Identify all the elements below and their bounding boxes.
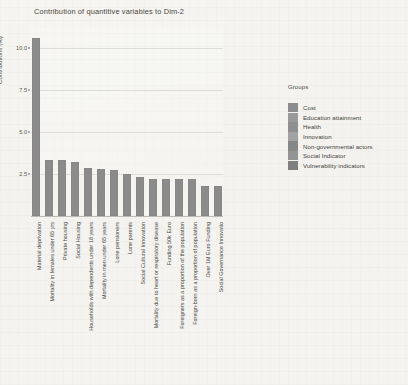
bar[interactable] — [123, 174, 131, 216]
bar-series — [31, 28, 223, 216]
x-tick-label: Private housing — [62, 222, 68, 260]
legend: Groups CostEducation attainmentHealthInn… — [288, 84, 406, 170]
x-tick-label: Social Governance Innovatio — [218, 222, 224, 292]
x-label-slot: Material deprivation — [32, 219, 40, 379]
legend-title: Groups — [288, 84, 406, 90]
legend-item-label: Innovation — [303, 133, 332, 140]
legend-item[interactable]: Education attainment — [288, 113, 406, 123]
x-label-slot: Foreigners as a proportion of the popula… — [175, 219, 183, 379]
legend-item[interactable]: Social Indicator — [288, 151, 406, 161]
x-label-slot: Mortality in females under 65 yrs — [45, 219, 53, 379]
bar[interactable] — [149, 179, 157, 216]
y-tick-label: 7.5 — [19, 87, 27, 93]
x-tick-label: Funding 50k Euro — [166, 222, 172, 265]
x-label-slot: Social Cultural Innovation — [136, 219, 144, 379]
bar[interactable] — [84, 168, 92, 216]
x-tick-label: Social Housing — [75, 222, 81, 259]
chart-title: Contribution of quantitive variables to … — [34, 7, 184, 16]
y-axis-ticks: 10.07.55.02.5 — [0, 28, 31, 216]
legend-color-swatch — [288, 161, 298, 170]
legend-item[interactable]: Non-governmental actors — [288, 141, 406, 151]
x-tick-label: Mortality due to heart or respiratory di… — [153, 222, 159, 328]
legend-item-label: Vulnerability indicators — [303, 162, 365, 169]
x-tick-label: Households with dependents under 18 year… — [88, 222, 94, 331]
x-label-slot: Social Governance Innovatio — [214, 219, 222, 379]
y-tick-mark — [28, 132, 30, 133]
legend-item-label: Education attainment — [303, 114, 361, 121]
legend-color-swatch — [288, 151, 298, 160]
x-tick-label: Mortality in females under 65 yrs — [49, 222, 55, 302]
bar[interactable] — [175, 179, 183, 216]
x-label-slot: Mortality in men under 65 years — [97, 219, 105, 379]
legend-item[interactable]: Innovation — [288, 132, 406, 142]
bar[interactable] — [58, 160, 66, 216]
legend-items: CostEducation attainmentHealthInnovation… — [288, 103, 406, 170]
legend-color-swatch — [288, 122, 298, 131]
legend-color-swatch — [288, 141, 298, 150]
x-label-slot: Social Housing — [71, 219, 79, 379]
x-axis-labels: Material deprivationMortality in females… — [31, 219, 223, 379]
x-tick-label: Over 1M Euro Funding — [205, 222, 211, 278]
x-tick-label: Lone pensioners — [114, 222, 120, 263]
chart-container: Contribution of quantitive variables to … — [0, 0, 408, 385]
legend-item-label: Social Indicator — [303, 152, 345, 159]
bar[interactable] — [136, 177, 144, 216]
legend-color-swatch — [288, 113, 298, 122]
x-label-slot: Lone parents — [123, 219, 131, 379]
y-tick-label: 2.5 — [19, 171, 27, 177]
legend-item-label: Cost — [303, 104, 316, 111]
legend-item[interactable]: Health — [288, 122, 406, 132]
x-tick-label: Foreign-born as a proportion of populati… — [192, 222, 198, 325]
x-label-slot: Foreign-born as a proportion of populati… — [188, 219, 196, 379]
legend-item-label: Non-governmental actors — [303, 143, 373, 150]
legend-item[interactable]: Vulnerability indicators — [288, 161, 406, 171]
bar[interactable] — [201, 186, 209, 216]
legend-color-swatch — [288, 132, 298, 141]
x-label-slot: Lone pensioners — [110, 219, 118, 379]
legend-item-label: Health — [303, 123, 321, 130]
bar[interactable] — [32, 38, 40, 216]
x-label-slot: Mortality due to heart or respiratory di… — [149, 219, 157, 379]
y-tick-mark — [28, 48, 30, 49]
x-tick-label: Lone parents — [127, 222, 133, 254]
bar[interactable] — [45, 160, 53, 216]
x-tick-label: Mortality in men under 65 years — [101, 222, 107, 299]
x-label-slot: Households with dependents under 18 year… — [84, 219, 92, 379]
plot-area — [31, 28, 223, 216]
bar[interactable] — [110, 170, 118, 216]
x-label-slot: Private housing — [58, 219, 66, 379]
bar[interactable] — [214, 186, 222, 216]
bar[interactable] — [71, 162, 79, 216]
x-label-slot: Funding 50k Euro — [162, 219, 170, 379]
legend-item[interactable]: Cost — [288, 103, 406, 113]
y-tick-mark — [28, 174, 30, 175]
y-tick-label: 10.0 — [16, 45, 27, 51]
x-label-slot: Over 1M Euro Funding — [201, 219, 209, 379]
x-axis-line — [31, 216, 223, 217]
legend-color-swatch — [288, 103, 298, 112]
bar[interactable] — [97, 169, 105, 216]
bar[interactable] — [162, 179, 170, 216]
x-tick-label: Social Cultural Innovation — [140, 222, 146, 284]
y-tick-label: 5.0 — [19, 129, 27, 135]
x-tick-label: Material deprivation — [36, 222, 42, 270]
bar[interactable] — [188, 179, 196, 216]
y-tick-mark — [28, 90, 30, 91]
x-tick-label: Foreigners as a proportion of the popula… — [179, 222, 185, 329]
